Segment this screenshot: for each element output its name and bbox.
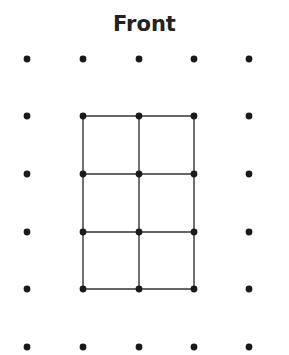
grid-dot bbox=[24, 344, 31, 351]
figure-lines bbox=[83, 116, 194, 289]
grid-dot bbox=[136, 286, 143, 293]
grid-dot bbox=[191, 113, 198, 120]
grid-dot bbox=[136, 113, 143, 120]
grid-dot bbox=[246, 229, 253, 236]
grid-dot bbox=[136, 229, 143, 236]
grid-dot bbox=[246, 344, 253, 351]
grid-dot bbox=[24, 56, 31, 63]
grid-dot bbox=[191, 344, 198, 351]
grid-dot bbox=[191, 171, 198, 178]
grid-dot bbox=[136, 56, 143, 63]
grid-dot bbox=[246, 171, 253, 178]
grid-dot bbox=[24, 171, 31, 178]
grid-dot bbox=[246, 113, 253, 120]
dot-grid-diagram bbox=[0, 0, 289, 355]
grid-dot bbox=[80, 344, 87, 351]
grid-dot bbox=[191, 229, 198, 236]
grid-dot bbox=[80, 171, 87, 178]
grid-dot bbox=[246, 286, 253, 293]
grid-dot bbox=[246, 56, 253, 63]
grid-dot bbox=[136, 171, 143, 178]
grid-dot bbox=[80, 56, 87, 63]
grid-dot bbox=[136, 344, 143, 351]
grid-dot bbox=[80, 229, 87, 236]
grid-dot bbox=[191, 56, 198, 63]
grid-dot bbox=[191, 286, 198, 293]
grid-dot bbox=[80, 113, 87, 120]
grid-dot bbox=[80, 286, 87, 293]
grid-dot bbox=[24, 229, 31, 236]
grid-dots bbox=[24, 56, 253, 351]
grid-dot bbox=[24, 286, 31, 293]
grid-dot bbox=[24, 113, 31, 120]
